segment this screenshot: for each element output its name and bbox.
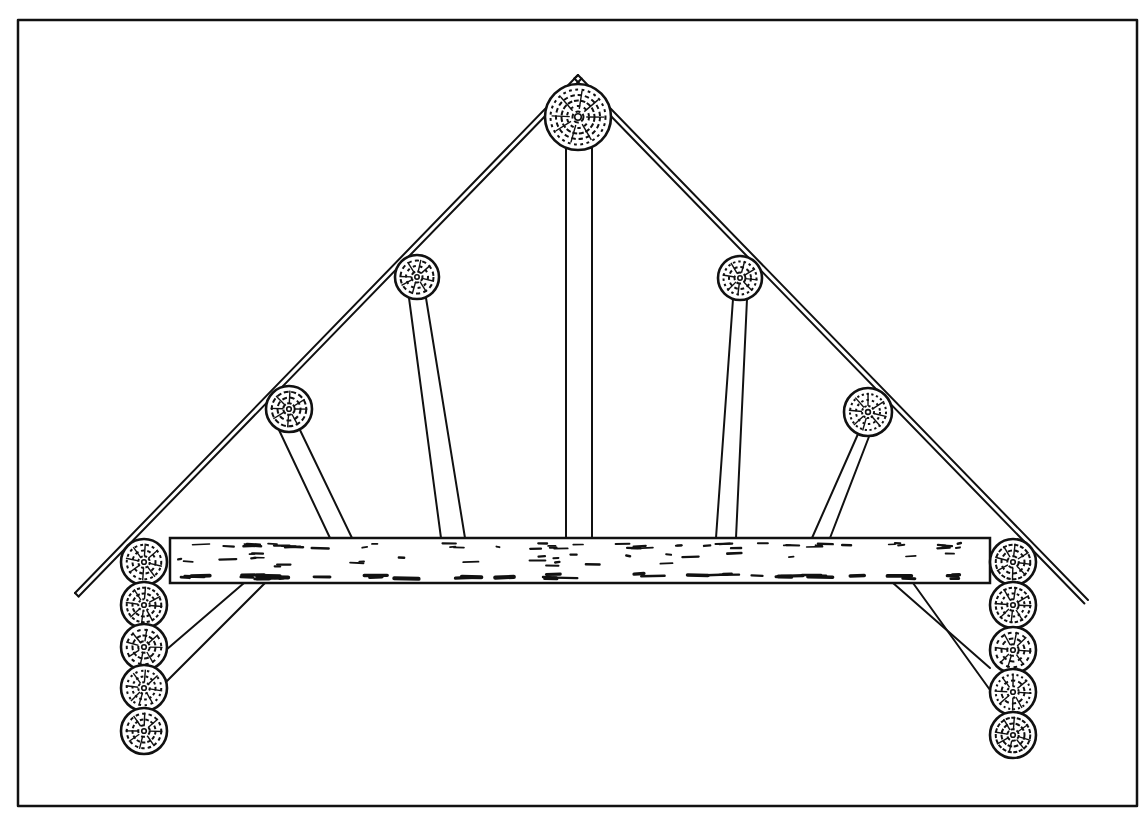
right-wall-log-3 xyxy=(990,627,1036,673)
pith xyxy=(738,276,742,280)
bark-mark xyxy=(539,556,545,557)
left-upper-strut xyxy=(409,298,465,538)
left-wall-log-4 xyxy=(121,665,167,711)
radial-check xyxy=(144,544,145,557)
radial-check xyxy=(1019,650,1032,651)
bark-mark xyxy=(956,547,960,548)
left-rafter-inner xyxy=(79,78,582,596)
bark-mark xyxy=(752,575,763,576)
bark-mark xyxy=(642,548,653,549)
bark-mark xyxy=(495,577,514,578)
bark-mark xyxy=(938,545,945,546)
bark-mark xyxy=(727,553,741,554)
right-upper-strut xyxy=(716,299,747,538)
bark-mark xyxy=(781,576,803,577)
radial-check xyxy=(1019,605,1032,606)
bark-mark xyxy=(181,577,189,578)
bark-mark xyxy=(634,573,644,574)
right-lower-strut xyxy=(812,434,870,538)
bark-mark xyxy=(450,547,455,548)
left-lower-strut xyxy=(279,428,352,538)
radial-check xyxy=(144,670,145,683)
right-wall-log-2 xyxy=(990,582,1036,628)
left-wall-log-5 xyxy=(121,708,167,754)
pith xyxy=(1011,648,1016,653)
figure-caption xyxy=(0,812,1145,826)
radial-check xyxy=(143,568,144,581)
ridge-log xyxy=(545,84,611,150)
tie-beam-log xyxy=(170,538,990,583)
bark-mark xyxy=(720,543,730,544)
pith xyxy=(142,729,147,734)
left-wall-log-3 xyxy=(121,624,167,670)
bark-mark xyxy=(463,562,478,563)
bark-mark xyxy=(219,559,236,560)
pith xyxy=(142,645,147,650)
pith xyxy=(287,407,292,412)
bark-mark xyxy=(256,575,279,576)
right-lower-purlin xyxy=(844,388,892,436)
bark-mark xyxy=(906,556,916,557)
right-upper-purlin xyxy=(718,256,762,300)
radial-check xyxy=(289,391,290,404)
left-wall-log-stack xyxy=(121,539,167,754)
left-lower-purlin xyxy=(266,386,312,432)
bark-mark xyxy=(666,554,671,555)
right-wall-log-5 xyxy=(990,712,1036,758)
left-wall-log-2 xyxy=(121,582,167,628)
bark-mark xyxy=(958,543,961,544)
left-rafter-outer xyxy=(75,75,578,593)
pith xyxy=(866,410,871,415)
struts xyxy=(279,298,870,538)
radial-check xyxy=(1013,717,1014,730)
radial-check xyxy=(995,691,1008,692)
bark-mark xyxy=(249,546,261,547)
bark-mark xyxy=(626,555,630,556)
left-rafter-end xyxy=(75,593,79,596)
bark-mark xyxy=(496,547,499,548)
bark-mark xyxy=(191,576,209,577)
right-rafter-outer xyxy=(578,75,1088,600)
knee-braces xyxy=(166,583,990,690)
pith xyxy=(575,114,582,121)
bark-mark xyxy=(555,562,559,563)
pith xyxy=(415,275,419,279)
bark-mark xyxy=(634,546,646,547)
bark-mark xyxy=(193,544,210,545)
right-wall-log-4 xyxy=(990,669,1036,715)
bark-mark xyxy=(688,575,708,576)
pith xyxy=(142,603,147,608)
left-wall-log-1 xyxy=(121,539,167,585)
left-knee-brace xyxy=(166,583,265,682)
bark-mark xyxy=(178,559,181,560)
bark-mark xyxy=(898,545,904,546)
right-knee-brace xyxy=(893,583,990,690)
pith xyxy=(1011,560,1016,565)
bark-mark xyxy=(184,561,193,562)
bark-mark xyxy=(937,548,949,549)
radial-check xyxy=(552,116,570,117)
bark-mark xyxy=(704,545,710,546)
roof-truss-diagram xyxy=(0,0,1145,826)
bark-mark xyxy=(223,546,233,547)
rafters xyxy=(75,75,1088,603)
pith xyxy=(142,560,147,565)
right-rafter-end xyxy=(574,75,578,78)
bark-mark xyxy=(394,578,418,579)
bark-mark xyxy=(682,557,698,558)
right-wall-log-stack xyxy=(990,539,1036,758)
bark-mark xyxy=(850,575,864,576)
radial-check xyxy=(995,604,1008,605)
radial-check xyxy=(288,415,289,428)
ridge-log-end xyxy=(545,84,611,150)
right-rafter-inner xyxy=(574,78,1084,603)
purlin-logs xyxy=(266,255,892,436)
bark-mark xyxy=(370,577,382,578)
pith xyxy=(1011,733,1016,738)
bark-mark xyxy=(362,547,367,548)
bark-mark xyxy=(350,563,363,564)
king-post xyxy=(566,148,592,538)
radial-check xyxy=(144,713,145,726)
pith xyxy=(142,686,147,691)
pith xyxy=(1011,690,1016,695)
